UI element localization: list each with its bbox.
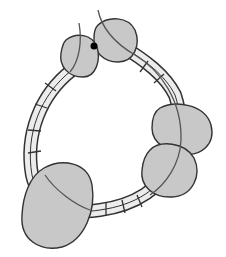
ring-diagram xyxy=(0,0,226,257)
junction-dot xyxy=(91,43,98,50)
blob-right-lower xyxy=(142,144,197,197)
diagram-canvas xyxy=(0,0,226,257)
blob-top-left xyxy=(61,35,99,77)
